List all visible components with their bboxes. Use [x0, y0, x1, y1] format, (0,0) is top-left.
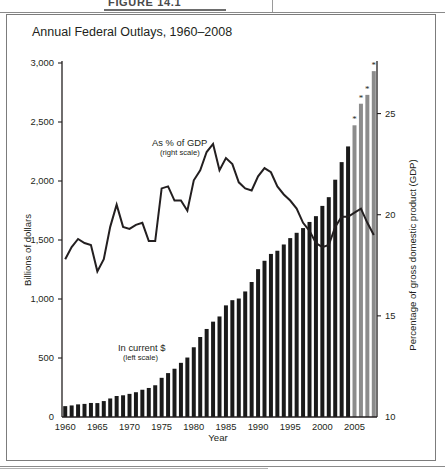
- bar-actual: [224, 305, 228, 417]
- right-axis-tick-label: 15: [385, 310, 395, 321]
- bar-actual: [218, 316, 222, 417]
- left-axis-tick-label: 1,500: [31, 234, 54, 245]
- bottom-divider-rule-secondary: [0, 468, 268, 469]
- left-axis-tick-label: 1,000: [31, 293, 54, 304]
- bar-actual: [147, 388, 151, 417]
- annotation-gdp-line-sub: (right scale): [160, 148, 200, 157]
- left-axis-tick-label: 0: [49, 411, 54, 422]
- x-axis-tick-label: 1995: [280, 421, 301, 432]
- bar-actual: [70, 405, 74, 417]
- bar-actual: [198, 337, 202, 417]
- x-axis-tick-label: 1970: [119, 421, 140, 432]
- x-axis-tick-label: 1980: [183, 421, 204, 432]
- bar-actual: [346, 146, 350, 417]
- bar-actual: [295, 233, 299, 417]
- annotation-bars-sub: (left scale): [123, 353, 158, 362]
- bar-actual: [102, 401, 106, 417]
- bar-actual: [121, 395, 125, 417]
- bar-actual: [314, 216, 318, 417]
- estimate-marker: *: [359, 93, 364, 103]
- bar-actual: [333, 180, 337, 417]
- bar-actual: [173, 369, 177, 417]
- bar-actual: [320, 206, 324, 417]
- bar-actual: [301, 228, 305, 417]
- estimate-marker: *: [365, 84, 370, 94]
- bar-actual: [256, 269, 260, 417]
- bar-actual: [192, 347, 196, 417]
- bar-actual: [185, 358, 189, 417]
- bar-actual: [140, 390, 144, 417]
- bottom-divider-rule: [0, 466, 445, 467]
- bar-actual: [308, 222, 312, 417]
- right-axis-tick-label: 25: [385, 108, 395, 119]
- bar-actual: [250, 282, 254, 417]
- left-axis-tick-label: 2,000: [31, 175, 54, 186]
- bar-actual: [134, 392, 138, 417]
- bar-actual: [166, 373, 170, 417]
- estimate-marker: *: [372, 60, 377, 70]
- x-axis-tick-label: 1990: [248, 421, 269, 432]
- bar-actual: [269, 254, 273, 417]
- chart-plot-area: **** 05001,0001,5002,0002,5003,000101520…: [0, 0, 445, 475]
- bar-actual: [282, 244, 286, 417]
- bar-actual: [128, 394, 132, 417]
- bar-actual: [115, 396, 119, 417]
- x-axis-tick-label: 2000: [312, 421, 333, 432]
- right-axis-tick-label: 20: [385, 209, 395, 220]
- estimate-marker: *: [352, 114, 357, 124]
- bar-actual: [230, 300, 234, 417]
- bar-actual: [237, 299, 241, 417]
- annotation-gdp-line-main: As % of GDP: [152, 137, 207, 148]
- bar-actual: [275, 251, 279, 417]
- left-axis-tick-label: 2,500: [31, 116, 54, 127]
- chart-svg: **** 05001,0001,5002,0002,5003,000101520…: [0, 0, 445, 475]
- right-axis-tick-label: 10: [385, 411, 395, 422]
- bar-estimate: [353, 125, 357, 417]
- bar-actual: [179, 363, 183, 417]
- right-axis-title: Percentage of gross domestic product (GD…: [407, 159, 418, 350]
- bar-estimate: [365, 95, 369, 417]
- left-axis-tick-label: 500: [38, 352, 54, 363]
- bar-actual: [205, 329, 209, 417]
- x-axis-title: Year: [208, 432, 228, 443]
- bar-actual: [63, 406, 67, 417]
- bar-actual: [211, 322, 215, 417]
- bar-actual: [327, 197, 331, 417]
- left-axis-title: Billions of dollars: [22, 214, 33, 286]
- bar-actual: [89, 403, 93, 417]
- x-axis-tick-label: 1985: [215, 421, 236, 432]
- bar-actual: [340, 162, 344, 417]
- x-axis-tick-label: 1960: [55, 421, 76, 432]
- annotation-bars-main: In current $: [118, 342, 166, 353]
- bar-actual: [76, 404, 80, 417]
- bar-estimate: [359, 104, 363, 417]
- bar-actual: [243, 291, 247, 417]
- bar-actual: [153, 385, 157, 417]
- bar-estimate: [372, 71, 376, 417]
- x-axis-tick-label: 1975: [151, 421, 172, 432]
- bar-actual: [95, 403, 99, 417]
- x-axis-tick-label: 1965: [87, 421, 108, 432]
- figure-page: FIGURE 14.1 Annual Federal Outlays, 1960…: [0, 0, 445, 475]
- bar-actual: [160, 378, 164, 417]
- x-axis-tick-label: 2005: [344, 421, 365, 432]
- bar-actual: [108, 398, 112, 417]
- bar-actual: [288, 238, 292, 417]
- bar-actual: [83, 404, 87, 417]
- left-axis-tick-label: 3,000: [31, 57, 54, 68]
- bar-actual: [263, 261, 267, 417]
